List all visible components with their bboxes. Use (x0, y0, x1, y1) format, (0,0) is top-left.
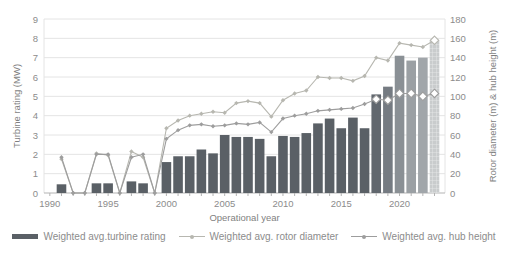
bar-2013 (313, 123, 323, 193)
x-axis-title: Operational year (44, 212, 445, 223)
rotor-marker-2016 (351, 79, 355, 83)
legend-item-hub-height: Weighted avg. hub height (351, 231, 495, 242)
left-tick-label: 3 (33, 130, 38, 141)
left-tick-label: 1 (33, 168, 38, 179)
x-tick-label: 2010 (272, 198, 293, 209)
hub-marker-2004 (211, 124, 215, 128)
hub-marker-1996 (118, 191, 122, 195)
legend-label-rotor-diameter: Weighted avg. rotor diameter (210, 231, 339, 242)
bar-2001 (173, 156, 183, 193)
right-tick-label: 100 (450, 91, 466, 102)
bar-2007 (243, 137, 253, 193)
right-tick-label: 40 (450, 149, 461, 160)
legend-item-rotor-diameter: Weighted avg. rotor diameter (179, 231, 339, 242)
hub-marker-2003 (199, 122, 203, 126)
rotor-marker-2015 (339, 76, 343, 80)
hub-marker-2015 (339, 107, 343, 111)
right-tick-label: 80 (450, 110, 461, 121)
bar-2015 (336, 128, 346, 193)
left-tick-label: 0 (33, 188, 38, 199)
hub-marker-1999 (153, 191, 157, 195)
bar-1998 (138, 183, 148, 193)
rotor-marker-2014 (327, 76, 331, 80)
bar-2021 (406, 61, 416, 193)
bar-2010 (278, 136, 288, 193)
hub-marker-2013 (316, 109, 320, 113)
marker-dot-icon (190, 235, 194, 239)
legend-item-turbine-rating: Weighted avg.turbine rating (12, 231, 165, 242)
legend-label-hub-height: Weighted avg. hub height (382, 231, 495, 242)
left-tick-label: 5 (33, 91, 38, 102)
bar-2016 (348, 118, 358, 193)
rotor-marker-2004 (211, 110, 215, 114)
right-tick-label: 60 (450, 130, 461, 141)
left-tick-label: 7 (33, 52, 38, 63)
bar-2005 (220, 135, 230, 193)
hub-marker-2016 (351, 106, 355, 110)
bar-2012 (301, 133, 311, 193)
bar-2023 (430, 40, 440, 193)
bar-2020 (395, 56, 405, 193)
right-tick-label: 20 (450, 168, 461, 179)
bar-1997 (127, 181, 137, 193)
hub-marker-1993 (83, 191, 87, 195)
rotor-marker-1997 (129, 149, 133, 153)
hub-marker-2011 (292, 113, 296, 117)
bar-2018 (371, 94, 381, 193)
right-tick-label: 120 (450, 72, 466, 83)
marker-dot-icon (362, 235, 366, 239)
x-tick-label: 1990 (39, 198, 60, 209)
hub-marker-2017 (362, 102, 366, 106)
rotor-marker-2002 (188, 113, 192, 117)
bar-swatch (12, 234, 38, 239)
right-tick-label: 180 (450, 14, 466, 25)
rotor-marker-2011 (292, 91, 296, 95)
hub-marker-1992 (71, 191, 75, 195)
bar-2022 (418, 58, 428, 193)
chart-plot-area: 0123456789020406080100120140160180199019… (0, 0, 508, 263)
rotor-marker-2021 (409, 43, 413, 47)
bar-1994 (92, 183, 102, 193)
bar-2004 (208, 153, 218, 193)
hub-marker-2014 (327, 108, 331, 112)
bar-2017 (360, 128, 370, 193)
hub-marker-2005 (222, 123, 226, 127)
left-axis-title: Turbine rating (MW) (11, 64, 22, 148)
bar-2003 (197, 150, 207, 194)
right-tick-label: 140 (450, 52, 466, 63)
turbine-scaling-chart: 0123456789020406080100120140160180199019… (0, 0, 508, 263)
x-tick-label: 2005 (214, 198, 235, 209)
legend: Weighted avg.turbine rating Weighted avg… (0, 231, 508, 242)
right-axis-title: Rotor diameter (m) & hub height (m) (487, 30, 498, 183)
bar-2011 (290, 137, 300, 193)
bar-2008 (255, 139, 265, 193)
x-tick-label: 2000 (156, 198, 177, 209)
bar-2000 (162, 162, 172, 193)
left-tick-label: 4 (33, 110, 38, 121)
left-tick-label: 9 (33, 14, 38, 25)
line-swatch-hub (351, 236, 377, 237)
bar-1991 (57, 184, 67, 193)
hub-marker-2007 (246, 122, 250, 126)
hub-marker-2006 (234, 121, 238, 125)
left-tick-label: 8 (33, 33, 38, 44)
x-tick-label: 2020 (389, 198, 410, 209)
left-tick-label: 2 (33, 149, 38, 160)
bar-2014 (325, 119, 335, 193)
bar-2009 (267, 156, 277, 193)
right-tick-label: 0 (450, 188, 455, 199)
legend-label-turbine-rating: Weighted avg.turbine rating (43, 231, 165, 242)
bar-2006 (232, 137, 242, 193)
hub-marker-2002 (188, 123, 192, 127)
right-tick-label: 160 (450, 33, 466, 44)
rotor-marker-2007 (246, 99, 250, 103)
x-tick-label: 2015 (331, 198, 352, 209)
x-tick-label: 1995 (98, 198, 119, 209)
rotor-marker-2022 (421, 45, 425, 49)
bar-1995 (103, 183, 113, 193)
bar-2002 (185, 156, 195, 193)
line-swatch-rotor (179, 236, 205, 237)
left-tick-label: 6 (33, 72, 38, 83)
